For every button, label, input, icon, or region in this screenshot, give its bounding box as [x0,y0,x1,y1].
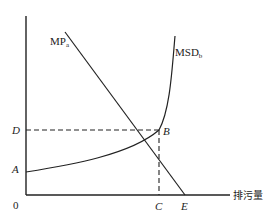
mp-label-sub: a [66,41,69,49]
x-axis-label: 排污量 [233,190,263,201]
msd-label-sub: b [199,52,203,60]
msd-label-main: MSD [175,46,199,58]
msd-b-label: MSDb [175,47,202,62]
mp-a-line [65,32,185,195]
origin-label: 0 [13,200,19,211]
point-d-label: D [12,125,20,136]
diagram-canvas [0,0,275,217]
point-b-label: B [163,126,170,137]
point-e-label: E [181,201,188,212]
point-a-label: A [12,164,19,175]
mp-a-label: MPa [50,36,69,51]
point-c-label: C [155,201,162,212]
mp-label-main: MP [50,35,66,47]
